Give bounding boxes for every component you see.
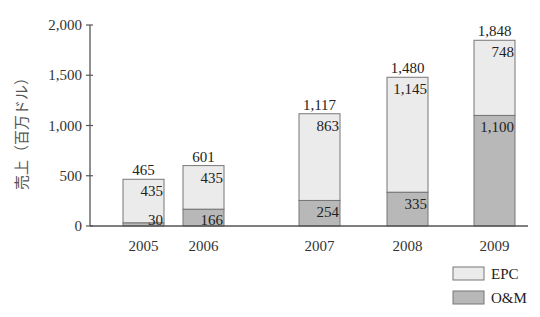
- x-axis: 20052006200720082009: [90, 226, 528, 254]
- y-axis-label: 売上（百万ドル）: [13, 70, 31, 190]
- y-tick-label: 2,000: [48, 17, 82, 33]
- total-label: 1,117: [303, 97, 337, 113]
- epc-value-label: 435: [141, 183, 164, 199]
- bar-2009: 1,8487481,100: [474, 23, 515, 226]
- total-label: 1,480: [391, 60, 425, 76]
- total-label: 1,848: [478, 23, 512, 39]
- epc-value-label: 435: [201, 170, 224, 186]
- x-tick-label: 2008: [393, 238, 423, 254]
- y-tick-label: 1,000: [48, 118, 82, 134]
- y-tick-label: 0: [75, 218, 83, 234]
- x-tick-label: 2006: [189, 238, 220, 254]
- y-tick-label: 500: [60, 168, 83, 184]
- legend-swatch-om: [453, 291, 484, 304]
- legend-item-om: O&M: [453, 290, 527, 306]
- legend-label-epc: EPC: [491, 266, 519, 282]
- om-value-label: 1,100: [480, 119, 514, 135]
- legend-item-epc: EPC: [453, 266, 519, 282]
- bar-2006: 601435166: [183, 149, 224, 228]
- epc-value-label: 863: [317, 118, 340, 134]
- bar-2007: 1,117863254: [299, 97, 340, 226]
- epc-value-label: 748: [492, 44, 515, 60]
- om-value-label: 335: [405, 196, 428, 212]
- bar-2008: 1,4801,145335: [387, 60, 428, 226]
- y-tick-label: 1,500: [48, 67, 82, 83]
- bars: 465435306014351661,1178632541,4801,14533…: [123, 23, 515, 228]
- x-tick-label: 2009: [480, 238, 510, 254]
- bar-2005: 46543530: [123, 162, 164, 228]
- legend: EPC O&M: [453, 266, 527, 306]
- y-axis: 05001,0001,5002,000: [48, 17, 93, 234]
- x-tick-label: 2005: [129, 238, 159, 254]
- legend-swatch-epc: [453, 267, 484, 280]
- total-label: 465: [132, 162, 155, 178]
- om-value-label: 254: [317, 204, 340, 220]
- stacked-bar-chart: 05001,0001,5002,000 465435306014351661,1…: [0, 0, 540, 317]
- total-label: 601: [192, 149, 215, 165]
- epc-value-label: 1,145: [393, 81, 427, 97]
- legend-label-om: O&M: [491, 290, 527, 306]
- x-tick-label: 2007: [305, 238, 336, 254]
